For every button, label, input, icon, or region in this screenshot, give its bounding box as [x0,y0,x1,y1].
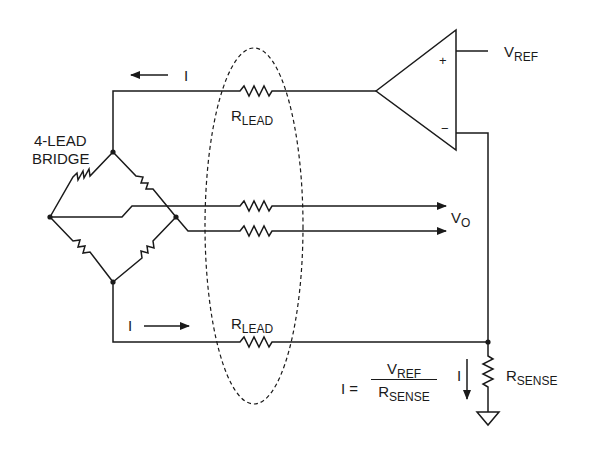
ground-icon [477,412,499,425]
current-label-sense: I [457,368,461,383]
bottom-lead-wire [113,282,488,347]
bridge-label-line1: 4-LEAD [34,133,87,148]
node-bridge-left [47,214,52,219]
node-bridge-top [110,149,115,154]
opamp-minus-sign: − [441,122,449,135]
vref-label: VREF [504,44,538,59]
equation-fraction: VREF RSENSE [371,361,437,399]
node-bridge-right [173,214,178,219]
opamp-minus-feedback-wire [456,133,488,342]
rlead-bottom-label: RLEAD [231,316,273,331]
current-label-bottom: I [128,318,132,333]
circuit-diagram [0,0,594,450]
bridge-resistor-bottom-right [113,217,176,282]
opamp-plus-sign: + [439,54,447,67]
vo-label: VO [451,210,470,225]
sense-resistor [483,342,493,412]
rsense-label: RSENSE [506,368,558,383]
rlead-top-label: RLEAD [231,108,273,123]
current-label-top: I [184,68,188,83]
bridge-resistor-top-right [113,152,176,217]
equation-denominator: RSENSE [371,380,437,399]
signal-wire-lower [176,217,446,236]
equation-lhs: I = [341,381,358,396]
node-bridge-bottom [110,279,115,284]
bridge-label-line2: BRIDGE [32,151,90,166]
signal-wire-upper [50,201,446,217]
bridge-resistor-bottom-left [50,217,113,282]
node-sense [485,339,490,344]
equation-numerator: VREF [371,361,437,380]
